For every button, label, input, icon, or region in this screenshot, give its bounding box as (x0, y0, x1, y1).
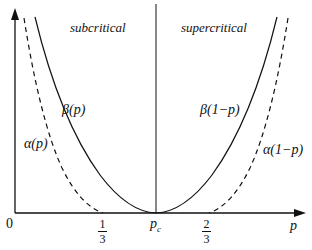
tick-denominator: 3 (204, 233, 210, 245)
tick-denominator: 3 (100, 233, 106, 245)
tick-numerator: 2 (204, 218, 210, 230)
pc-main: p (150, 216, 157, 231)
label-beta-1mp: β(1−p) (200, 103, 240, 117)
region-label-subcritical: subcritical (70, 21, 126, 34)
x-axis-arrow-icon (294, 209, 306, 217)
tick-label-pc: pc (150, 217, 161, 234)
x-axis-label: p (290, 219, 297, 233)
label-beta-p: β(p) (62, 103, 85, 117)
tick-numerator: 1 (100, 218, 106, 230)
origin-label: 0 (6, 217, 13, 231)
curve-beta-p (35, 17, 156, 213)
tick-label-two-thirds: 2 3 (202, 218, 211, 245)
region-label-supercritical: supercritical (181, 21, 247, 34)
label-alpha-p: α(p) (24, 137, 48, 151)
tick-label-one-third: 1 3 (98, 218, 107, 245)
y-axis-arrow-icon (11, 8, 19, 20)
label-alpha-1mp: α(1−p) (263, 143, 303, 157)
pc-sub: c (157, 224, 161, 234)
phase-diagram (0, 0, 312, 250)
